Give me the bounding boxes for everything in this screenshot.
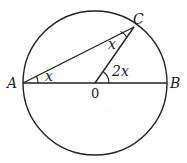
label-b: B	[169, 75, 180, 91]
angle-label-c: x	[108, 36, 116, 52]
angle-label-o: 2x	[111, 63, 129, 79]
circle-diagram: A B C 0 x x 2x	[0, 0, 187, 163]
label-c: C	[133, 11, 144, 27]
angle-arc-a	[36, 76, 38, 83]
label-o: 0	[91, 86, 99, 101]
diagram: A B C 0 x x 2x	[0, 0, 187, 163]
angle-arc-o	[103, 72, 109, 84]
label-a: A	[5, 75, 17, 91]
angle-label-a: x	[45, 68, 53, 84]
